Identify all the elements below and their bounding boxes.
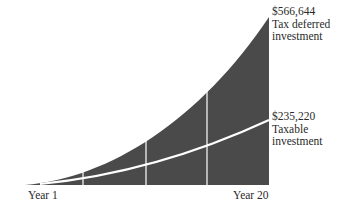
taxable-text2: investment xyxy=(272,135,322,148)
tax-deferred-area xyxy=(25,17,269,185)
tax-deferred-label: $566,644 Tax deferred investment xyxy=(272,5,330,43)
taxable-label: $235,220 Taxable investment xyxy=(272,110,322,148)
taxable-text1: Taxable xyxy=(272,123,322,136)
x-end-label: Year 20 xyxy=(233,189,269,202)
tax-deferred-text2: investment xyxy=(272,30,330,43)
tax-deferred-value: $566,644 xyxy=(272,5,330,18)
x-start-label: Year 1 xyxy=(28,189,58,202)
taxable-value: $235,220 xyxy=(272,110,322,123)
tax-deferred-text1: Tax deferred xyxy=(272,18,330,31)
